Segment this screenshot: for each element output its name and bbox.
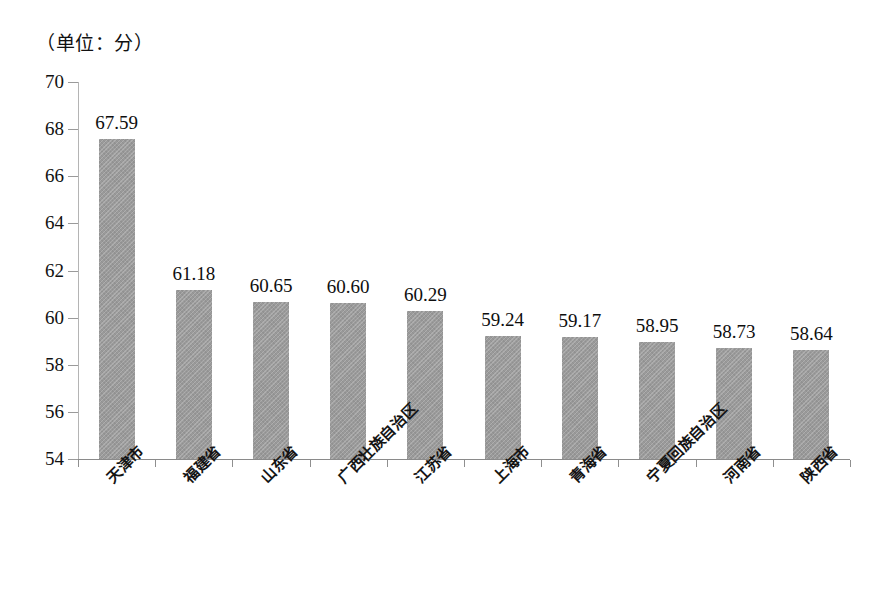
x-axis-tick [155,460,156,467]
y-axis-tick-label: 70 [24,72,64,91]
unit-label: （单位：分） [36,28,153,55]
bar-value-label: 60.29 [380,285,470,304]
bar [253,302,289,459]
y-axis-tick [68,412,78,413]
y-axis-tick [68,459,78,460]
bar-chart: （单位：分） 706866646260585654 67.5961.1860.6… [0,0,874,616]
y-axis-tick [68,318,78,319]
x-axis-tick [618,460,619,467]
bar-value-label: 58.64 [766,324,856,343]
y-axis-tick-label: 62 [24,261,64,280]
x-axis-tick [78,460,79,467]
bar-value-label: 67.59 [72,113,162,132]
y-axis-tick-label: 68 [24,119,64,138]
y-axis-tick [68,365,78,366]
x-axis-tick [310,460,311,467]
x-axis-tick [696,460,697,467]
bar [485,336,521,459]
bar [407,311,443,459]
y-axis-tick-label: 54 [24,449,64,468]
x-axis-tick [464,460,465,467]
bar [330,303,366,459]
x-axis-tick [773,460,774,467]
y-axis-tick-label: 66 [24,166,64,185]
y-axis-tick [68,176,78,177]
x-axis-tick [850,460,851,467]
y-axis-line [78,82,79,460]
y-axis-tick-label: 58 [24,355,64,374]
x-axis-tick [541,460,542,467]
y-axis-tick [68,223,78,224]
y-axis-tick-label: 60 [24,308,64,327]
y-axis-tick [68,271,78,272]
y-axis-tick-label: 56 [24,402,64,421]
bar [99,139,135,459]
y-axis-tick-label: 64 [24,213,64,232]
bar [176,290,212,459]
x-axis-tick [387,460,388,467]
bar [562,337,598,459]
y-axis-tick [68,82,78,83]
x-axis-tick [232,460,233,467]
